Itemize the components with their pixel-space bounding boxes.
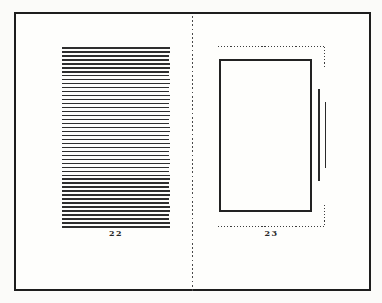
text-area-dotted-corner-top-right bbox=[324, 47, 325, 68]
text-line bbox=[62, 103, 169, 105]
text-line bbox=[62, 198, 169, 200]
text-line bbox=[62, 194, 170, 196]
text-line bbox=[62, 167, 169, 169]
text-line bbox=[62, 190, 170, 192]
text-line bbox=[62, 143, 170, 145]
text-line bbox=[62, 159, 170, 161]
text-line bbox=[62, 99, 170, 101]
text-line bbox=[62, 222, 170, 224]
figure-frame: 22 23 bbox=[14, 12, 371, 291]
text-line bbox=[62, 135, 169, 137]
text-line bbox=[62, 127, 170, 129]
margin-rule-short bbox=[325, 102, 327, 168]
text-line bbox=[62, 91, 169, 93]
text-line bbox=[62, 147, 170, 149]
plate-rectangle bbox=[219, 59, 312, 212]
text-line bbox=[62, 51, 170, 53]
text-line bbox=[62, 171, 169, 173]
page-number-left: 22 bbox=[62, 228, 170, 238]
figure-canvas: 22 23 bbox=[0, 0, 382, 303]
text-line bbox=[62, 83, 170, 85]
text-line bbox=[62, 131, 170, 133]
text-line bbox=[62, 151, 169, 153]
text-area-dotted-top bbox=[218, 46, 325, 47]
text-line bbox=[62, 79, 170, 81]
text-line bbox=[62, 206, 170, 208]
text-line bbox=[62, 87, 169, 89]
text-line bbox=[62, 210, 170, 212]
text-line bbox=[62, 95, 170, 97]
text-line bbox=[62, 75, 169, 77]
text-line bbox=[62, 139, 169, 141]
text-area-dotted-corner-bottom-right bbox=[324, 205, 325, 227]
text-line bbox=[62, 178, 170, 180]
text-line bbox=[62, 214, 169, 216]
text-line bbox=[62, 119, 169, 121]
text-line bbox=[62, 182, 169, 184]
text-line bbox=[62, 202, 169, 204]
text-line bbox=[62, 71, 169, 73]
text-line bbox=[62, 163, 170, 165]
text-line bbox=[62, 155, 169, 157]
text-line bbox=[62, 63, 170, 65]
text-line bbox=[62, 55, 169, 57]
text-line bbox=[62, 67, 170, 69]
text-line bbox=[62, 107, 169, 109]
text-line bbox=[62, 175, 170, 177]
text-line bbox=[62, 47, 170, 49]
text-line bbox=[62, 115, 170, 117]
page-number-right: 23 bbox=[218, 228, 325, 238]
text-line bbox=[62, 123, 169, 125]
text-block bbox=[62, 47, 170, 229]
text-line bbox=[62, 186, 169, 188]
text-line bbox=[62, 59, 169, 61]
margin-rule-long bbox=[318, 89, 320, 181]
text-line bbox=[62, 111, 170, 113]
text-line bbox=[62, 218, 169, 220]
center-fold-dotted-line bbox=[192, 16, 193, 291]
